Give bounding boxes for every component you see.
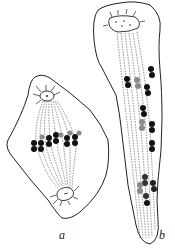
panel-label-a: a — [59, 228, 65, 243]
spindle-fibers-b — [117, 32, 155, 238]
centrosome-a-top — [33, 85, 60, 104]
chromosome-plate-a — [31, 131, 82, 153]
panel-label-b: b — [159, 228, 165, 243]
centrosome-a-bottom — [50, 186, 79, 206]
figure-canvas — [0, 0, 175, 248]
centrosome-b — [103, 9, 145, 32]
